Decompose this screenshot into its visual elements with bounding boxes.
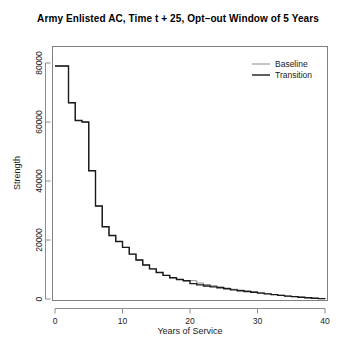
- chart-plot-area: 020000400006000080000 Strength 010203040…: [0, 0, 356, 355]
- chart-container: Army Enlisted AC, Time t + 25, Opt–out W…: [0, 0, 356, 355]
- x-tick-label: 10: [118, 316, 128, 326]
- plot-frame: [53, 47, 328, 301]
- x-axis: 010203040 Years of Service: [53, 309, 330, 337]
- x-tick-label: 0: [53, 316, 58, 326]
- y-axis: 020000400006000080000 Strength: [12, 51, 51, 301]
- y-tick-label: 40000: [34, 169, 44, 193]
- y-tick-label: 0: [34, 296, 44, 301]
- legend-label-baseline: Baseline: [275, 59, 308, 69]
- y-tick-label: 20000: [34, 228, 44, 252]
- chart-legend: BaselineTransition: [252, 59, 312, 80]
- y-tick-label: 60000: [34, 110, 44, 134]
- legend-label-transition: Transition: [275, 70, 312, 80]
- x-tick-label: 30: [253, 316, 263, 326]
- x-tick-label: 20: [185, 316, 195, 326]
- x-axis-title: Years of Service: [157, 326, 222, 336]
- y-tick-label: 80000: [34, 51, 44, 75]
- x-tick-label: 40: [320, 316, 330, 326]
- chart-series-group: [55, 66, 325, 299]
- y-axis-ticks: 020000400006000080000: [34, 51, 50, 301]
- x-axis-ticks: 010203040: [53, 309, 330, 327]
- y-axis-title: Strength: [12, 156, 22, 190]
- series-line-transition: [55, 66, 325, 299]
